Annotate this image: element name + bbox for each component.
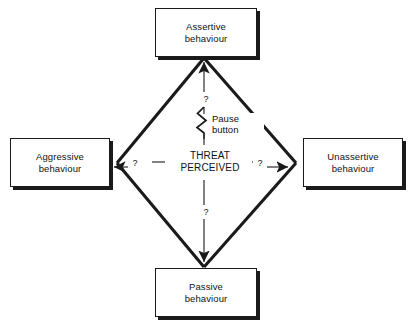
uncertainty-marker-top: ? — [199, 95, 213, 104]
node-assertive-behaviour[interactable]: Assertive behaviour — [155, 8, 257, 57]
uncertainty-marker-bottom: ? — [199, 208, 213, 217]
node-aggressive-label: Aggressive behaviour — [36, 151, 84, 174]
uncertainty-marker-left: ? — [128, 159, 142, 168]
node-passive-label: Passive behaviour — [185, 281, 228, 304]
node-unassertive-behaviour[interactable]: Unassertive behaviour — [303, 138, 403, 187]
node-passive-behaviour[interactable]: Passive behaviour — [155, 268, 257, 317]
lightning-squiggle-icon — [197, 107, 206, 139]
node-aggressive-behaviour[interactable]: Aggressive behaviour — [10, 138, 110, 187]
diagram-canvas: Assertive behaviour Aggressive behaviour… — [0, 0, 412, 324]
node-unassertive-label: Unassertive behaviour — [327, 151, 378, 174]
pause-button-label: Pause button — [212, 113, 264, 135]
node-assertive-label: Assertive behaviour — [185, 21, 228, 44]
uncertainty-marker-right: ? — [253, 159, 267, 168]
center-threat-perceived-label: THREAT PERCEIVED — [168, 150, 252, 173]
